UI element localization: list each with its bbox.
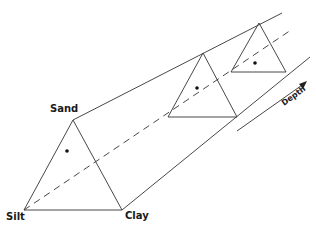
depth-label: Depth (280, 84, 308, 108)
front-ternary-triangle (24, 120, 122, 210)
top-edge-line (73, 13, 282, 120)
middle-ternary-triangle (168, 53, 237, 117)
silt-label: Silt (6, 211, 25, 222)
back-sample-dot (253, 61, 257, 65)
bottom-edge-line (122, 57, 310, 210)
ternary-prism-diagram: Sand Silt Clay Depth (0, 0, 316, 234)
silt-axis-dashed-line (24, 30, 291, 210)
back-ternary-triangle (231, 23, 286, 72)
sand-label: Sand (50, 103, 78, 114)
middle-sample-dot (195, 86, 199, 90)
clay-label: Clay (125, 210, 149, 221)
front-sample-dot (65, 149, 69, 153)
